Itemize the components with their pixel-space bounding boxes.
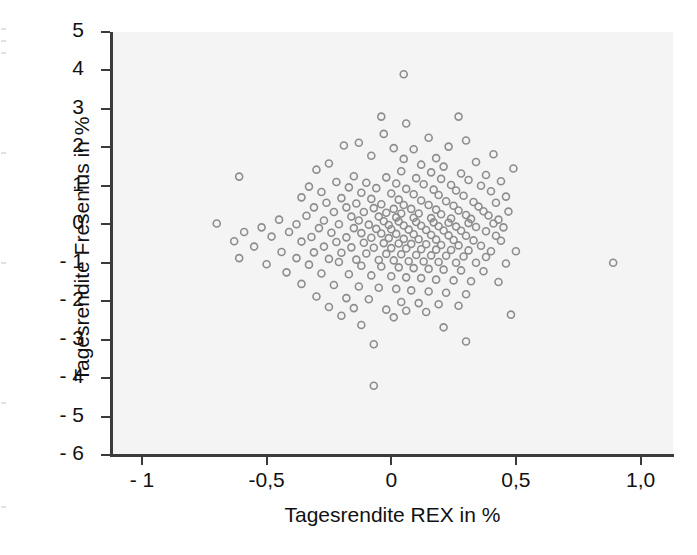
data-point	[473, 223, 480, 230]
data-point	[231, 238, 238, 245]
data-point	[507, 311, 514, 318]
data-point	[458, 267, 465, 274]
data-point	[363, 179, 370, 186]
scan-edge-mark	[1, 52, 6, 54]
data-point	[348, 213, 355, 220]
data-point	[403, 185, 410, 192]
data-point	[365, 296, 372, 303]
x-axis-title: Tagesrendite REX in %	[112, 503, 673, 527]
data-point	[425, 134, 432, 141]
data-point	[380, 130, 387, 137]
data-point	[393, 230, 400, 237]
data-point	[418, 197, 425, 204]
data-point	[298, 194, 305, 201]
data-point	[483, 172, 490, 179]
data-point	[393, 180, 400, 187]
data-point	[378, 263, 385, 270]
data-point	[348, 244, 355, 251]
data-point	[236, 255, 243, 262]
data-point	[365, 221, 372, 228]
data-point	[370, 244, 377, 251]
data-point	[428, 169, 435, 176]
data-point	[478, 182, 485, 189]
data-point	[420, 258, 427, 265]
data-point	[388, 190, 395, 197]
data-point	[325, 160, 332, 167]
data-point	[268, 233, 275, 240]
data-point	[425, 202, 432, 209]
data-point	[405, 258, 412, 265]
data-point	[378, 113, 385, 120]
data-point	[368, 272, 375, 279]
data-point-layer	[112, 32, 673, 455]
data-point	[435, 301, 442, 308]
data-point	[403, 120, 410, 127]
data-point	[278, 248, 285, 255]
data-point	[350, 173, 357, 180]
data-point	[350, 225, 357, 232]
x-axis-tick	[640, 456, 642, 465]
data-point	[418, 275, 425, 282]
data-point	[303, 212, 310, 219]
data-point	[236, 173, 243, 180]
data-point	[395, 264, 402, 271]
data-point	[463, 338, 470, 345]
data-point	[400, 202, 407, 209]
data-point	[610, 259, 617, 266]
data-point	[408, 287, 415, 294]
data-point	[455, 302, 462, 309]
data-point	[325, 303, 332, 310]
x-axis-tick	[266, 456, 268, 465]
data-point	[370, 341, 377, 348]
data-point	[410, 191, 417, 198]
data-point	[388, 273, 395, 280]
y-axis-tick	[101, 454, 110, 456]
y-axis-tick	[101, 185, 110, 187]
data-point	[330, 282, 337, 289]
data-point	[360, 239, 367, 246]
y-axis-tick	[101, 223, 110, 225]
data-point	[375, 284, 382, 291]
data-point	[435, 258, 442, 265]
data-point	[393, 285, 400, 292]
data-point	[343, 295, 350, 302]
data-point	[383, 250, 390, 257]
data-point	[276, 216, 283, 223]
data-point	[345, 184, 352, 191]
data-point	[502, 193, 509, 200]
data-point	[363, 250, 370, 257]
y-axis-tick	[101, 31, 110, 33]
data-point	[400, 71, 407, 78]
data-point	[415, 236, 422, 243]
data-point	[343, 204, 350, 211]
data-point	[398, 251, 405, 258]
data-point	[390, 205, 397, 212]
data-point	[378, 201, 385, 208]
data-point	[410, 265, 417, 272]
data-point	[335, 258, 342, 265]
data-point	[338, 195, 345, 202]
data-point	[370, 382, 377, 389]
x-axis-tick-label: 1,0	[626, 468, 655, 492]
data-point	[465, 177, 472, 184]
data-point	[333, 178, 340, 185]
data-point	[415, 300, 422, 307]
x-axis-tick	[390, 456, 392, 465]
data-point	[512, 248, 519, 255]
data-point	[395, 240, 402, 247]
data-point	[343, 234, 350, 241]
data-point	[465, 247, 472, 254]
data-point	[390, 145, 397, 152]
data-point	[403, 274, 410, 281]
data-point	[433, 276, 440, 283]
data-point	[383, 209, 390, 216]
data-point	[353, 256, 360, 263]
data-point	[460, 253, 467, 260]
data-point	[310, 204, 317, 211]
data-point	[358, 189, 365, 196]
data-point	[345, 271, 352, 278]
data-point	[440, 266, 447, 273]
data-point	[328, 229, 335, 236]
data-point	[425, 265, 432, 272]
data-point	[335, 221, 342, 228]
